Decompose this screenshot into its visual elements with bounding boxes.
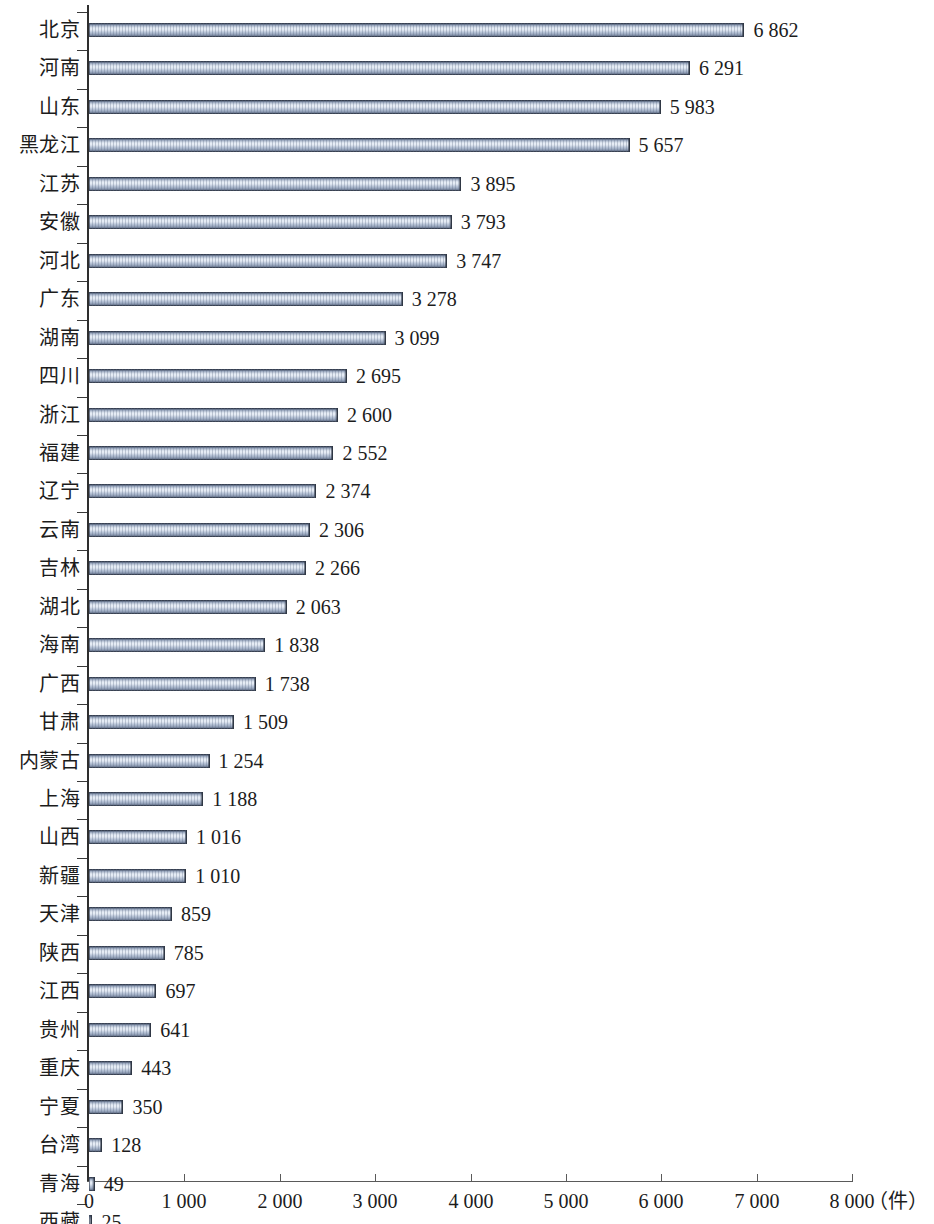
y-axis-tick: [77, 550, 87, 551]
bar-end-cap: [309, 523, 310, 537]
bar-end-cap: [451, 215, 452, 229]
bar-container: 3 895: [89, 172, 620, 196]
bar-end-cap: [131, 1061, 132, 1075]
bar-row: 海南1 838: [0, 633, 934, 657]
bar-end-cap: [202, 792, 203, 806]
bar: [89, 177, 460, 191]
bar-row: 湖南3 099: [0, 326, 934, 350]
x-axis-tick: [566, 1174, 567, 1182]
bar-end-cap: [150, 1023, 151, 1037]
y-axis-tick: [77, 89, 87, 90]
bar-end-cap: [446, 254, 447, 268]
bar-end-cap: [186, 830, 187, 844]
category-label: 四川: [0, 364, 80, 388]
y-axis-tick: [77, 1166, 87, 1167]
category-label: 贵州: [0, 1018, 80, 1042]
bar-end-cap: [233, 715, 234, 729]
bar-end-cap: [91, 1215, 92, 1224]
y-axis-tick: [77, 512, 87, 513]
bar-value-label: 49: [104, 1172, 124, 1196]
bar-container: 6 291: [89, 56, 849, 80]
category-label: 甘肃: [0, 710, 80, 734]
bar-value-label: 6 862: [753, 18, 798, 42]
bar-row: 安徽3 793: [0, 210, 934, 234]
bar-container: 443: [89, 1056, 291, 1080]
y-axis-tick: [77, 935, 87, 936]
category-label: 宁夏: [0, 1095, 80, 1119]
bar: [89, 907, 171, 921]
bar-end-cap: [185, 869, 186, 883]
category-label: 浙江: [0, 403, 80, 427]
x-axis-tick-label: 4 000: [449, 1188, 494, 1214]
y-axis-tick: [77, 358, 87, 359]
bar-container: 697: [89, 979, 315, 1003]
bar-end-cap: [264, 638, 265, 652]
y-axis-tick: [77, 1127, 87, 1128]
bar: [89, 215, 451, 229]
bar-row: 贵州641: [0, 1018, 934, 1042]
bar-end-cap: [101, 1138, 102, 1152]
bar-container: 2 063: [89, 595, 446, 619]
bar-container: 2 266: [89, 556, 465, 580]
bar-row: 河北3 747: [0, 249, 934, 273]
x-axis-tick-label: 3 000: [353, 1188, 398, 1214]
y-axis-tick: [77, 473, 87, 474]
y-axis-tick: [77, 127, 87, 128]
x-axis-tick-label: 7 000: [735, 1188, 780, 1214]
bar-value-label: 1 838: [274, 633, 319, 657]
bar-row: 浙江2 600: [0, 403, 934, 427]
bar-row: 广东3 278: [0, 287, 934, 311]
bar: [89, 61, 689, 75]
category-label: 北京: [0, 18, 80, 42]
bar-row: 江西697: [0, 979, 934, 1003]
bar-row: 辽宁2 374: [0, 479, 934, 503]
bar-value-label: 2 063: [296, 595, 341, 619]
x-axis-tick: [184, 1174, 185, 1182]
category-label: 江苏: [0, 172, 80, 196]
category-label: 河北: [0, 249, 80, 273]
bar-container: 128: [89, 1133, 261, 1157]
y-axis-tick: [77, 781, 87, 782]
bar-row: 湖北2 063: [0, 595, 934, 619]
category-label: 天津: [0, 902, 80, 926]
category-label: 云南: [0, 518, 80, 542]
category-label: 安徽: [0, 210, 80, 234]
y-axis-tick: [77, 589, 87, 590]
bar-end-cap: [743, 23, 744, 37]
category-label: 台湾: [0, 1133, 80, 1157]
bar: [89, 715, 233, 729]
bar-container: 1 188: [89, 787, 362, 811]
bar-end-cap: [402, 292, 403, 306]
bar-value-label: 5 983: [670, 95, 715, 119]
bar: [89, 638, 264, 652]
bar: [89, 1100, 122, 1114]
x-axis-unit-label: （件）: [868, 1188, 928, 1214]
bar-value-label: 1 509: [243, 710, 288, 734]
bar-value-label: 2 552: [342, 441, 387, 465]
bar-container: 859: [89, 902, 331, 926]
bar-end-cap: [171, 907, 172, 921]
bar-value-label: 6 291: [699, 56, 744, 80]
bar-value-label: 2 695: [356, 364, 401, 388]
bar-row: 四川2 695: [0, 364, 934, 388]
bar-row: 陕西785: [0, 941, 934, 965]
bar-container: 2 600: [89, 403, 497, 427]
y-axis-tick: [77, 397, 87, 398]
bar-value-label: 785: [174, 941, 204, 965]
bar-container: 3 793: [89, 210, 611, 234]
bar-end-cap: [629, 138, 630, 152]
bar-value-label: 3 099: [395, 326, 440, 350]
bar-row: 台湾128: [0, 1133, 934, 1157]
bar-container: 2 306: [89, 518, 469, 542]
bar: [89, 138, 629, 152]
bar-row: 宁夏350: [0, 1095, 934, 1119]
bar-container: 3 099: [89, 326, 545, 350]
category-label: 福建: [0, 441, 80, 465]
bar-value-label: 443: [141, 1056, 171, 1080]
bar-chart: 北京6 862河南6 291山东5 983黑龙江5 657江苏3 895安徽3 …: [0, 0, 934, 1224]
bar-row: 甘肃1 509: [0, 710, 934, 734]
bar-end-cap: [122, 1100, 123, 1114]
bar-end-cap: [155, 984, 156, 998]
bar: [89, 792, 202, 806]
bar-value-label: 1 010: [195, 864, 240, 888]
